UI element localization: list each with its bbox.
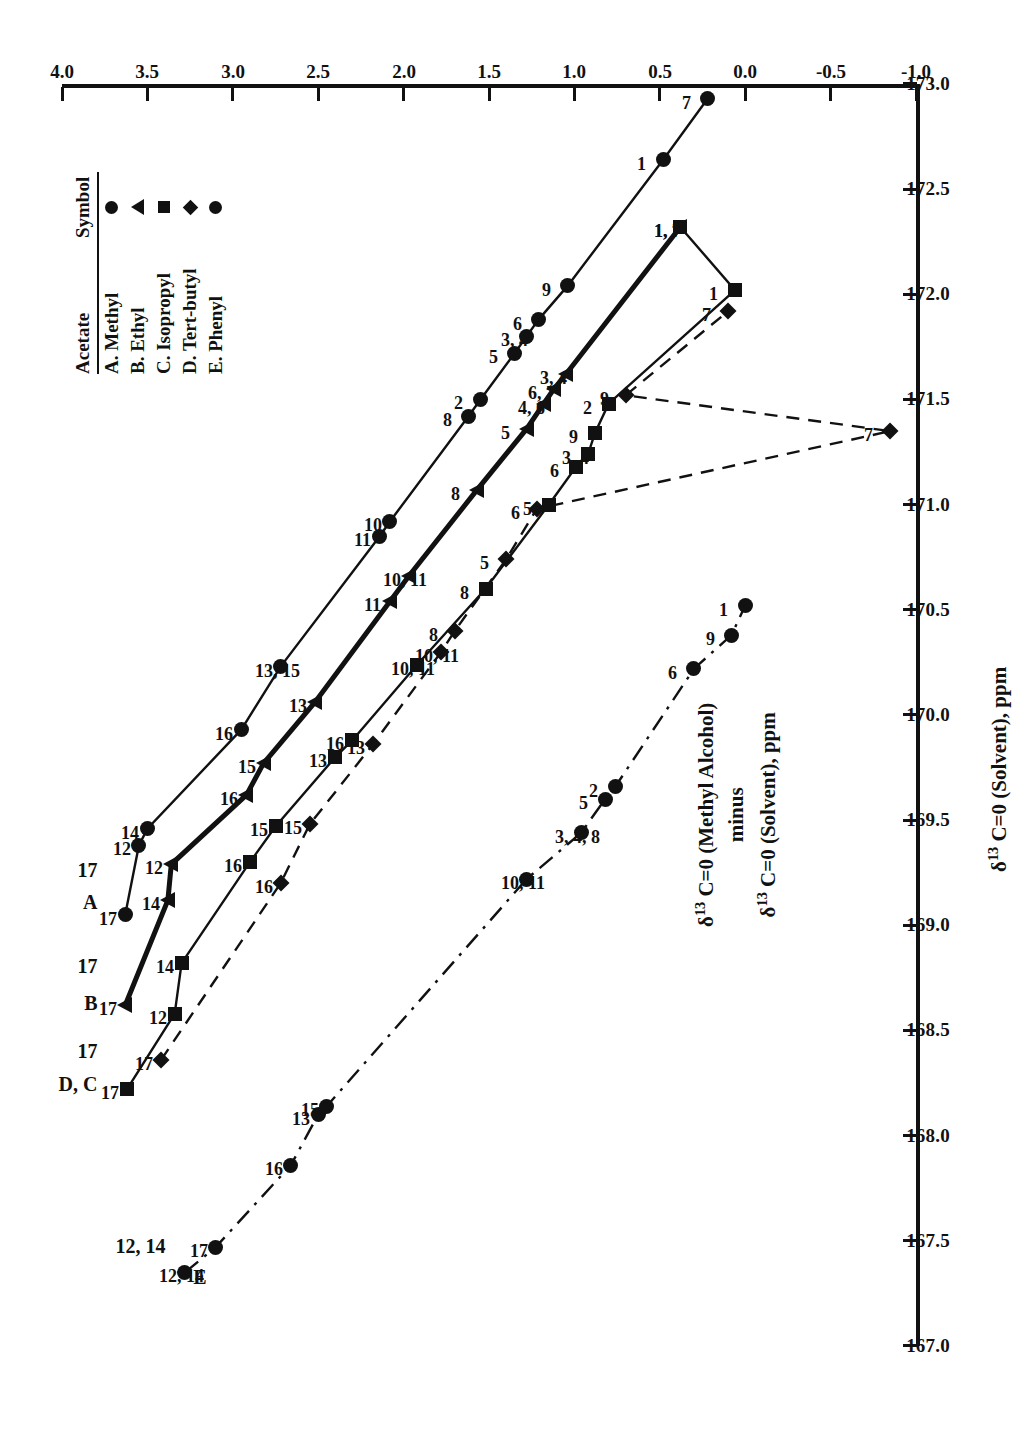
data-point-label: 16 <box>220 789 238 810</box>
data-point-label: 17 <box>101 1083 119 1104</box>
circle-icon <box>209 201 222 214</box>
series-letter-label: 12, 14 <box>116 1235 166 1258</box>
data-point-B <box>163 856 178 872</box>
data-point-label: 11 <box>364 595 381 616</box>
data-point-label: 8 <box>429 625 438 646</box>
data-point-label: 13 <box>347 738 365 759</box>
legend-label-d: D. Tert-butyl <box>177 242 203 374</box>
data-point-C <box>728 283 742 297</box>
series-letter-label: B <box>84 992 97 1015</box>
series-letter-label: A <box>83 891 97 914</box>
data-point-label: 15 <box>301 1100 319 1121</box>
data-point-B <box>160 892 175 908</box>
data-point-label: 10, 11 <box>383 570 427 591</box>
data-point-A <box>140 821 155 836</box>
data-point-B <box>256 755 271 771</box>
data-point-C <box>269 819 283 833</box>
data-point-A <box>118 907 133 922</box>
data-point-label: 17 <box>135 1054 153 1075</box>
legend-symbol-triangle-icon <box>125 172 151 242</box>
data-point-label: 7 <box>702 305 711 326</box>
data-point-label: 6 <box>511 503 520 524</box>
legend-symbol-circle-icon <box>98 172 125 242</box>
data-point-C <box>120 1082 134 1096</box>
legend-row: A. Methyl <box>98 172 125 374</box>
data-point-B <box>382 593 397 609</box>
legend-symbol-diamond-icon <box>177 172 203 242</box>
data-point-label: 12 <box>145 858 163 879</box>
triangle-icon <box>131 199 144 215</box>
square-icon <box>158 201 170 213</box>
data-point-label: 16 <box>224 856 242 877</box>
data-point-label: 15 <box>250 820 268 841</box>
data-point-label: 13 <box>309 751 327 772</box>
data-point-E <box>724 628 739 643</box>
legend-label-a: A. Methyl <box>98 242 125 374</box>
data-point-label: 6 <box>550 461 559 482</box>
data-point-label: 5 <box>579 793 588 814</box>
data-point-label: 12 <box>149 1008 167 1029</box>
data-point-E <box>598 792 613 807</box>
data-point-label: 1 <box>709 284 718 305</box>
data-point-E <box>608 779 623 794</box>
data-point-label: 1 <box>719 600 728 621</box>
data-point-label: 14 <box>142 894 160 915</box>
legend-header-acetate: Acetate <box>72 242 98 374</box>
data-point-label: 16 <box>326 734 344 755</box>
data-point-B <box>307 694 322 710</box>
series-letter-label: 17 <box>77 955 97 978</box>
data-point-label: 2 <box>589 781 598 802</box>
data-point-label: 2 <box>454 394 463 415</box>
legend-header-row: Acetate Symbol <box>72 172 98 374</box>
legend-body: A. MethylB. EthylC. IsopropylD. Tert-but… <box>98 172 229 374</box>
legend-table: Acetate Symbol A. MethylB. EthylC. Isopr… <box>72 172 229 374</box>
data-point-label: 6 <box>668 663 677 684</box>
data-point-label: 5 <box>480 553 489 574</box>
data-point-label: 16 <box>215 724 233 745</box>
chart-plot-area: 167.0167.5168.0168.5169.0169.5170.0170.5… <box>0 0 1012 1432</box>
data-point-label: 8 <box>460 583 469 604</box>
diamond-icon <box>183 200 199 216</box>
data-point-C <box>588 426 602 440</box>
data-point-label: 9 <box>569 427 578 448</box>
data-point-A <box>234 722 249 737</box>
data-point-B <box>519 421 534 437</box>
data-point-label: 1 <box>637 154 646 175</box>
data-point-C <box>168 1007 182 1021</box>
data-point-C <box>175 956 189 970</box>
data-point-label: 9 <box>600 389 609 410</box>
data-point-label: 7 <box>864 425 873 446</box>
data-point-label: 9 <box>542 280 551 301</box>
legend-symbol-circle-icon <box>203 172 229 242</box>
data-point-E <box>319 1099 334 1114</box>
data-point-label: 14 <box>121 823 139 844</box>
data-point-label: 13, 15 <box>255 661 300 682</box>
legend-row: E. Phenyl <box>203 172 229 374</box>
data-point-A <box>656 152 671 167</box>
data-point-label: 6 <box>513 314 522 335</box>
data-point-E <box>208 1240 223 1255</box>
data-point-E <box>283 1158 298 1173</box>
data-point-label: 15 <box>284 818 302 839</box>
data-point-B <box>469 482 484 498</box>
data-point-label: 9 <box>706 629 715 650</box>
rotated-figure: 167.0167.5168.0168.5169.0169.5170.0170.5… <box>0 0 1012 1432</box>
data-point-label: 16 <box>255 877 273 898</box>
data-point-label: 7 <box>682 93 691 114</box>
data-point-label: 15 <box>238 757 256 778</box>
legend-header-symbol: Symbol <box>72 172 98 242</box>
data-point-label: 8 <box>451 484 460 505</box>
data-point-E <box>738 598 753 613</box>
data-point-A <box>473 392 488 407</box>
data-point-label: 2 <box>583 398 592 419</box>
data-point-label: 5 <box>489 347 498 368</box>
data-point-C <box>243 855 257 869</box>
data-point-label: 14 <box>156 957 174 978</box>
data-point-A <box>461 409 476 424</box>
data-point-label: 10 <box>364 516 382 537</box>
data-point-label: 3, 4 <box>540 368 567 389</box>
data-point-label: 17 <box>99 909 117 930</box>
series-letter-label: E <box>193 1266 206 1289</box>
data-point-label: 10, 11 <box>501 873 545 894</box>
circle-icon <box>105 201 118 214</box>
